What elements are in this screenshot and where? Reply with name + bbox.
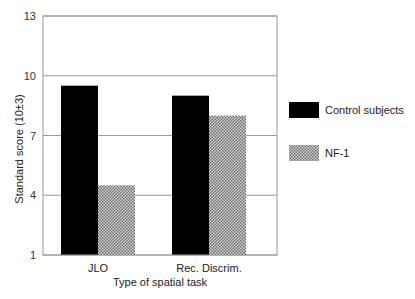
y-tick-label: 7 <box>30 130 36 142</box>
legend-label: NF-1 <box>325 147 349 159</box>
legend-swatch <box>289 145 319 161</box>
bars <box>61 86 246 255</box>
x-category-label: Rec. Discrim. <box>176 262 241 274</box>
y-axis-title: Standard score (10±3) <box>13 94 25 203</box>
x-category-label: JLO <box>88 262 109 274</box>
bar <box>172 96 209 255</box>
bar <box>61 86 98 255</box>
bar <box>209 116 246 255</box>
legend: Control subjectsNF-1 <box>289 102 404 161</box>
bar <box>98 185 135 255</box>
y-tick-label: 4 <box>30 189 36 201</box>
x-axis-categories: JLORec. Discrim. <box>88 262 242 274</box>
y-axis-ticks: 1471013 <box>24 10 36 261</box>
legend-label: Control subjects <box>325 104 404 116</box>
y-tick-label: 13 <box>24 10 36 22</box>
legend-swatch <box>289 102 319 118</box>
x-axis-title: Type of spatial task <box>113 276 208 288</box>
y-tick-label: 1 <box>30 249 36 261</box>
y-tick-label: 10 <box>24 70 36 82</box>
bar-chart: 1471013 JLORec. Discrim. Type of spatial… <box>0 0 415 299</box>
